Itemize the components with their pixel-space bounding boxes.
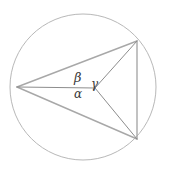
angle-label-beta: β — [74, 71, 82, 84]
figure-canvas — [0, 0, 169, 174]
geometry-figure: β α γ — [0, 0, 169, 174]
cevian-p-to-c — [95, 88, 137, 139]
cevian-p-to-b — [95, 41, 137, 88]
angle-label-alpha: α — [74, 88, 82, 100]
angle-label-gamma: γ — [91, 78, 98, 90]
cevian-a-to-p — [17, 87, 95, 88]
